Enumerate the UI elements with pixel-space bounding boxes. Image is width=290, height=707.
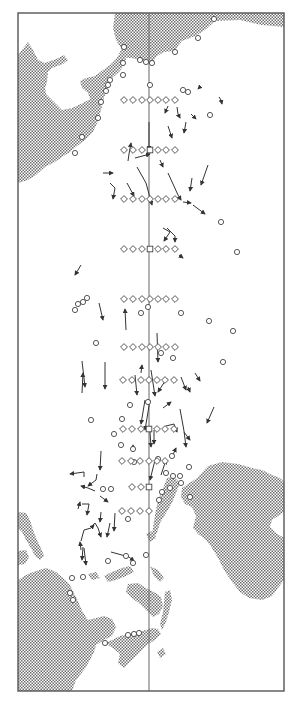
observation-site-circle <box>67 590 72 595</box>
observation-site-circle <box>72 150 77 155</box>
drift-track-arrow <box>207 407 214 423</box>
observation-site-circle <box>75 301 80 306</box>
observation-site-circle <box>121 44 126 49</box>
drift-track-arrow <box>81 525 94 541</box>
station-diamond-marker <box>162 377 169 384</box>
station-diamond-marker <box>139 246 146 253</box>
station-diamond-marker <box>139 196 146 203</box>
station-diamond-marker <box>172 97 179 104</box>
station-diamond-marker <box>171 377 178 384</box>
land-islet-cluster-3 <box>150 566 164 582</box>
land-large-island <box>181 462 284 600</box>
station-diamond-marker <box>162 458 169 465</box>
observation-site-circle <box>130 446 135 451</box>
station-diamond-marker <box>146 458 153 465</box>
observation-site-circle <box>120 72 125 77</box>
drift-track-arrow <box>219 97 222 104</box>
observation-site-circle <box>72 307 77 312</box>
observation-site-circle <box>187 494 192 499</box>
drift-track-arrow <box>180 409 186 447</box>
station-diamond-marker <box>163 97 170 104</box>
station-diamond-marker <box>129 426 136 433</box>
station-diamond-marker <box>147 296 154 303</box>
observation-site-circle <box>195 35 200 40</box>
station-diamond-marker <box>119 458 126 465</box>
station-diamond-marker <box>172 246 179 253</box>
drift-track-arrow <box>160 160 163 167</box>
station-diamond-marker <box>119 508 126 515</box>
drift-track-arrow <box>110 183 115 199</box>
station-diamond-marker <box>139 97 146 104</box>
observation-site-circle <box>118 442 123 447</box>
drift-track-arrow <box>82 504 89 515</box>
observation-site-circle <box>123 553 128 558</box>
drift-track-arrow <box>135 375 137 395</box>
station-diamond-marker <box>121 246 128 253</box>
observation-site-circle <box>80 299 85 304</box>
station-diamond-marker <box>139 344 146 351</box>
station-diamond-marker <box>172 296 179 303</box>
observation-site-circle <box>108 486 113 491</box>
observation-site-circle <box>158 350 163 355</box>
observation-site-circle <box>170 473 175 478</box>
drift-track-arrow <box>100 496 108 502</box>
station-diamond-marker <box>146 377 153 384</box>
observation-site-circle <box>127 402 132 407</box>
station-square-marker <box>146 484 152 490</box>
station-diamond-marker <box>163 344 170 351</box>
observation-site-circle <box>156 497 161 502</box>
observation-site-circle <box>93 340 98 345</box>
drift-track-arrow <box>177 107 180 118</box>
observation-site-circle <box>149 60 154 65</box>
station-diamond-marker <box>147 97 154 104</box>
drift-track-arrow <box>100 512 101 522</box>
observation-site-circle <box>143 552 148 557</box>
station-diamond-marker <box>172 344 179 351</box>
observation-site-circle <box>147 82 152 87</box>
drift-track-arrow <box>75 265 81 275</box>
station-square-marker <box>147 246 153 252</box>
observation-site-circle <box>163 470 168 475</box>
station-diamond-marker <box>130 97 137 104</box>
observation-site-circle <box>100 486 105 491</box>
station-diamond-marker <box>130 196 137 203</box>
drift-track-arrow <box>183 202 191 203</box>
observation-site-circle <box>130 560 135 565</box>
observation-site-circle <box>167 485 172 490</box>
station-diamond-marker <box>129 484 136 491</box>
observation-site-circle <box>230 328 235 333</box>
station-diamond-marker <box>163 296 170 303</box>
station-diamond-marker <box>128 508 135 515</box>
station-diamond-marker <box>121 97 128 104</box>
station-diamond-marker <box>121 344 128 351</box>
drift-track-arrow <box>88 474 97 486</box>
station-diamond-marker <box>120 426 127 433</box>
drift-track-arrow <box>84 548 86 565</box>
station-diamond-marker <box>138 426 145 433</box>
observation-site-circle <box>234 249 239 254</box>
station-diamond-marker <box>147 196 154 203</box>
observation-site-circle <box>180 87 185 92</box>
observation-site-circle <box>136 630 141 635</box>
drift-track-arrow <box>99 303 103 320</box>
station-diamond-marker <box>155 246 162 253</box>
drift-track-map <box>0 0 290 707</box>
drift-track-arrow <box>150 432 151 447</box>
observation-site-circle <box>120 60 125 65</box>
observation-site-circle <box>119 416 124 421</box>
drift-track-arrow <box>82 547 83 560</box>
station-diamond-marker <box>155 196 162 203</box>
drift-track-arrow <box>111 552 134 561</box>
station-diamond-marker <box>163 147 170 154</box>
observation-site-circle <box>79 134 84 139</box>
observation-site-circle <box>186 464 191 469</box>
observation-site-circle <box>105 82 110 87</box>
station-diamond-marker <box>172 147 179 154</box>
drift-track-arrow <box>80 542 81 550</box>
station-diamond-marker <box>137 508 144 515</box>
observation-site-circle <box>125 632 130 637</box>
drift-track-arrow <box>114 513 115 531</box>
drift-track-arrow <box>141 400 145 424</box>
station-diamond-marker <box>155 344 162 351</box>
drift-track-arrow <box>188 387 190 392</box>
